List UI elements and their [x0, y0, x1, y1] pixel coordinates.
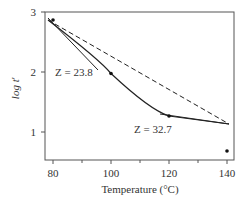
chart: 3 2 1 80 100 120 140 Temperature (°C) lo…	[0, 0, 245, 203]
annotation-z-23-8: Z = 23.8	[55, 66, 93, 78]
x-tick-label-80: 80	[48, 167, 60, 179]
y-axis-label: log t′	[9, 77, 21, 99]
svg-text:log t′: log t′	[9, 77, 21, 99]
x-tick-label-120: 120	[161, 167, 178, 179]
y-tick-label-2: 2	[31, 66, 37, 78]
y-tick-label-3: 3	[31, 6, 37, 18]
annotation-z-32-7: Z = 32.7	[134, 123, 172, 135]
x-axis	[53, 160, 227, 164]
plot-frame	[45, 12, 234, 160]
x-tick-label-140: 140	[219, 167, 236, 179]
x-axis-label: Temperature (°C)	[101, 183, 179, 196]
y-tick-label-1: 1	[31, 126, 37, 138]
y-axis	[41, 12, 45, 132]
x-tick-label-100: 100	[103, 167, 120, 179]
